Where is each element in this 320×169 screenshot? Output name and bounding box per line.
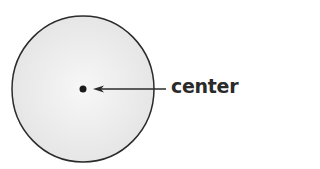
- center-point: [80, 86, 87, 93]
- center-label: center: [171, 75, 238, 97]
